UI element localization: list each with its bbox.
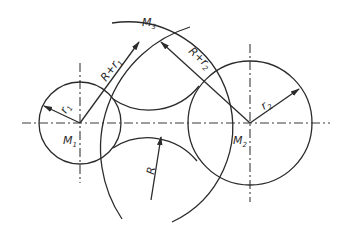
label-m1: M1 — [63, 134, 77, 149]
label-m3: M3 — [142, 16, 156, 31]
label-m2: M2 — [233, 134, 248, 149]
lower-blend-arc — [113, 138, 197, 161]
radius-r2-arrow — [250, 89, 299, 123]
tangent-arc-construction-diagram: M3 M1 M2 r1 r2 R+r1 R+r2 R — [0, 0, 338, 232]
label-r2: r2 — [258, 96, 274, 114]
label-R-plus-r2: R+r2 — [185, 45, 215, 74]
upper-blend-arc — [113, 86, 199, 110]
